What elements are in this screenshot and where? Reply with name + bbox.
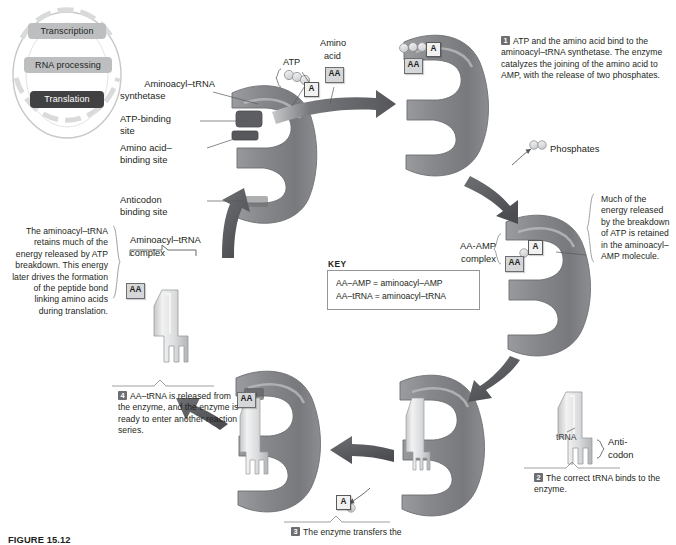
arrow-cycle-return <box>222 188 250 258</box>
label-synthetase: Aminoacyl–tRNA synthetase <box>120 78 215 90</box>
step-4-number: 4 <box>118 391 127 400</box>
step-1-text: ATP and the amino acid bind to the amino… <box>501 36 662 80</box>
arrow-to-aa-amp <box>464 176 518 224</box>
step-2-number: 2 <box>534 473 543 482</box>
label-anticodon-binding-site-line2: binding site <box>120 206 167 217</box>
label-amino-acid-line2: acid <box>324 51 341 61</box>
label-amino-acid-binding-site: Amino acid– binding site <box>120 142 212 166</box>
amp-tag-aa-amp: A <box>528 240 543 255</box>
label-atp-binding-site-line1: ATP-binding <box>120 113 171 124</box>
step-3-text: The enzyme transfers the <box>303 527 402 537</box>
label-atp: ATP <box>283 57 300 67</box>
label-anticodon-line1: Anti- <box>608 436 627 448</box>
label-phosphates: Phosphates <box>550 143 600 155</box>
released-phosphates <box>530 141 546 149</box>
amino-acid-tag-free-trna: AA <box>126 283 145 299</box>
step-4-text: AA–tRNA is released from the enzyme, and… <box>118 391 238 435</box>
cycle-item-transcription[interactable]: Transcription <box>28 23 106 39</box>
label-aa-amp-complex-line2: complex <box>438 253 496 265</box>
label-anticodon-binding-site: Anticodon binding site <box>120 194 212 218</box>
annotation-energy-right: Much of the energy released by the break… <box>601 194 673 262</box>
label-trna: tRNA <box>556 431 577 443</box>
cycle-item-translation[interactable]: Translation <box>30 91 104 108</box>
amp-tag-step1: A <box>426 42 441 57</box>
amino-acid-tag-aa-amp: AA <box>505 256 524 272</box>
key-line-2: AA–tRNA = aminoacyl–tRNA <box>336 290 471 303</box>
arrow-step-3 <box>330 436 394 464</box>
step-3-callout: 3The enzyme transfers the <box>291 527 451 538</box>
step-2-callout: 2The correct tRNA binds to the enzyme. <box>534 473 664 496</box>
figure-caption: FIGURE 15.12 <box>8 534 71 545</box>
key-box: AA–AMP = aminoacyl–AMP AA–tRNA = aminoac… <box>327 270 480 310</box>
amino-acid-tag-step1: AA <box>404 58 423 74</box>
cycle-item-rna-processing[interactable]: RNA processing <box>24 57 112 73</box>
free-trna <box>558 392 604 464</box>
step-1-callout: 1ATP and the amino acid bind to the amin… <box>501 36 669 82</box>
amp-tag-free: A <box>304 82 319 97</box>
enzyme-aa-amp <box>506 215 590 356</box>
label-aa-amp-complex-line1: AA-AMP <box>438 240 496 252</box>
label-amino-acid-binding-site-line2: binding site <box>120 154 167 165</box>
label-anticodon-line2: codon <box>608 449 634 461</box>
label-aminoacyl-trna-complex-line2: complex <box>130 247 165 259</box>
figure-canvas: Transcription RNA processing Translation… <box>0 0 676 545</box>
label-aminoacyl-trna-complex-line1: Aminoacyl–tRNA <box>130 234 240 246</box>
step-2-text: The correct tRNA binds to the enzyme. <box>534 473 660 494</box>
amp-tag-transferred: A <box>336 495 351 510</box>
key-line-1: AA–AMP = aminoacyl–AMP <box>336 277 471 290</box>
free-aminoacyl-trna <box>130 245 196 362</box>
label-synthetase-line1: Aminoacyl–tRNA <box>144 78 215 89</box>
arrow-step-2 <box>468 356 520 402</box>
label-synthetase-line2: synthetase <box>120 90 215 102</box>
key-title: KEY <box>328 259 346 269</box>
label-amino-acid-line1: Amino <box>320 38 346 48</box>
label-amino-acid-binding-site-line1: Amino acid– <box>120 142 172 153</box>
amino-acid-tag-free: AA <box>325 67 344 83</box>
label-atp-binding-site-line2: site <box>120 125 135 136</box>
label-atp-binding-site: ATP-binding site <box>120 113 206 137</box>
annotation-energy-left: The aminoacyl–tRNA retains much of the e… <box>8 226 108 317</box>
step-4-callout: 4AA–tRNA is released from the enzyme, an… <box>118 391 240 437</box>
enzyme-with-atp-and-aa <box>400 35 489 176</box>
step-3-number: 3 <box>291 527 300 536</box>
step-1-number: 1 <box>501 36 510 45</box>
label-anticodon-binding-site-line1: Anticodon <box>120 194 162 205</box>
